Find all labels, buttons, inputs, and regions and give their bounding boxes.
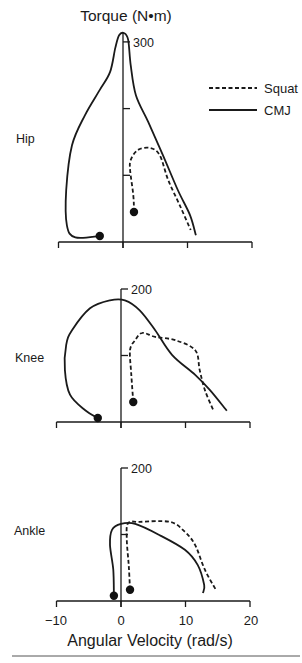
legend: Squat CMJ — [209, 81, 298, 118]
cmj-start-marker — [110, 591, 118, 599]
squat-start-marker — [129, 398, 137, 406]
x-tick-label: 10 — [179, 613, 193, 628]
cmj-curve — [110, 523, 204, 596]
legend-cmj-label: CMJ — [264, 103, 291, 118]
cmj-start-marker — [94, 414, 102, 422]
y-axis-title: Torque (N•m) — [80, 7, 172, 24]
x-tick-label: 20 — [244, 613, 258, 628]
torque-velocity-figure: Torque (N•m) Squat CMJ Hip Knee Ankle 30… — [0, 0, 302, 663]
y-tick-label: 200 — [131, 283, 152, 297]
y-tick-label: 300 — [133, 36, 154, 50]
hip-panel: 300 — [59, 33, 253, 248]
squat-start-marker — [130, 208, 138, 216]
cmj-start-marker — [96, 232, 104, 240]
cmj-curve — [66, 33, 196, 238]
x-tick-label: −10 — [45, 613, 67, 628]
y-tick-label: 200 — [131, 462, 152, 476]
panel-label-hip: Hip — [16, 132, 35, 146]
cmj-curve — [65, 299, 227, 418]
squat-start-marker — [126, 585, 134, 593]
x-tick-label: 0 — [117, 613, 124, 628]
panel-label-knee: Knee — [15, 351, 44, 365]
x-tick-labels: −10 0 10 20 — [45, 613, 258, 628]
knee-panel: 200 — [57, 283, 251, 428]
panel-label-ankle: Ankle — [14, 524, 45, 538]
x-axis-title: Angular Velocity (rad/s) — [67, 632, 232, 649]
squat-curve — [130, 148, 191, 230]
squat-curve — [130, 333, 213, 410]
legend-squat-label: Squat — [264, 81, 298, 96]
ankle-panel: 200 — [57, 462, 251, 607]
